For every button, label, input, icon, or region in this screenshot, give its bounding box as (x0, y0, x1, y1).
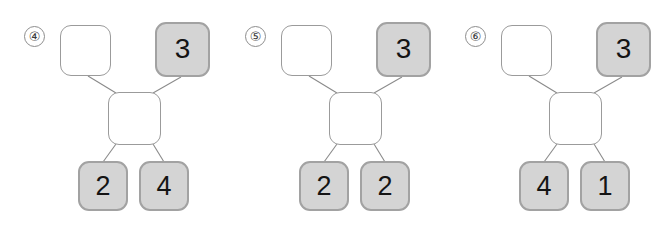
number-bond-puzzle: ⑤ 3 2 2 (221, 0, 442, 233)
number-bond-puzzle: ⑥ 3 4 1 (441, 0, 662, 233)
cell-middle[interactable] (108, 92, 161, 145)
cell-bottom-right[interactable]: 2 (360, 161, 410, 211)
cell-bottom-right-value: 2 (362, 163, 408, 209)
puzzle-index-badge: ⑥ (465, 26, 486, 47)
cell-bottom-right[interactable]: 1 (580, 161, 630, 211)
connector-bottom-left (103, 144, 116, 162)
cell-middle[interactable] (329, 92, 382, 145)
cell-top-right-value: 3 (598, 24, 649, 74)
cell-bottom-right-value: 1 (582, 163, 628, 209)
puzzle-index-badge: ⑤ (245, 26, 266, 47)
cell-bottom-left-value: 4 (521, 163, 567, 209)
cell-bottom-left-value: 2 (301, 163, 347, 209)
connector-top-left (309, 76, 337, 93)
connector-top-right (594, 77, 622, 93)
cell-top-right[interactable]: 3 (376, 22, 431, 77)
connector-bottom-left (544, 144, 557, 162)
connector-top-right (374, 77, 402, 93)
cell-top-right-value: 3 (378, 24, 429, 74)
cell-top-right-value: 3 (157, 24, 208, 74)
connector-top-left (529, 76, 557, 93)
cell-bottom-right[interactable]: 4 (139, 161, 189, 211)
cell-bottom-left[interactable]: 2 (78, 161, 128, 211)
cell-bottom-left[interactable]: 4 (519, 161, 569, 211)
connector-top-right (153, 77, 181, 93)
worksheet: ④ 3 2 4 ⑤ 3 2 2 ⑥ 3 4 1 (0, 0, 662, 233)
cell-top-right[interactable]: 3 (155, 22, 210, 77)
puzzle-index-badge: ④ (24, 26, 45, 47)
connector-bottom-right (594, 144, 605, 162)
cell-top-right[interactable]: 3 (596, 22, 651, 77)
cell-middle[interactable] (549, 92, 602, 145)
cell-bottom-left[interactable]: 2 (299, 161, 349, 211)
cell-top-left[interactable] (60, 25, 111, 76)
connector-bottom-left (324, 144, 337, 162)
cell-top-left[interactable] (501, 25, 552, 76)
connector-bottom-right (374, 144, 385, 162)
cell-bottom-left-value: 2 (80, 163, 126, 209)
number-bond-puzzle: ④ 3 2 4 (0, 0, 221, 233)
cell-top-left[interactable] (281, 25, 332, 76)
connector-bottom-right (153, 144, 164, 162)
connector-top-left (88, 76, 116, 93)
cell-bottom-right-value: 4 (141, 163, 187, 209)
